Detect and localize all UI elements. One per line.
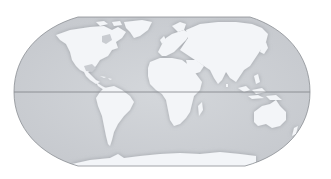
world-map-svg bbox=[0, 0, 331, 179]
world-map bbox=[0, 0, 331, 179]
